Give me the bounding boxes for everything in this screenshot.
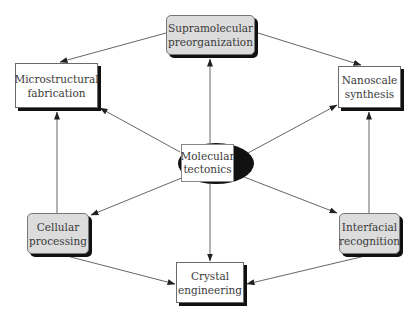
node-label: Interfacial recognition <box>339 220 400 248</box>
node-crystal-engineering: Crystal engineering <box>176 262 244 303</box>
arrow-supramolecular-to-microstructural <box>60 33 166 62</box>
node-interfacial-recognition: Interfacial recognition <box>339 213 400 254</box>
node-label: Supramolecular preorganization <box>168 21 253 49</box>
arrow-center-to-interfacial <box>244 177 337 213</box>
center-label-text: Molecular tectonics <box>181 150 235 176</box>
node-nanoscale-synthesis: Nanoscale synthesis <box>338 66 401 108</box>
node-label: Cellular processing <box>29 220 87 248</box>
arrow-center-to-microstructural <box>100 108 180 152</box>
arrow-interfacial-to-crystal <box>247 256 365 284</box>
concept-diagram: Supramolecular preorganization Microstru… <box>0 0 420 317</box>
arrow-supramolecular-to-nanoscale <box>258 33 361 65</box>
node-label: Microstructural fabrication <box>14 72 98 100</box>
node-microstructural-fabrication: Microstructural fabrication <box>15 63 98 108</box>
node-label: Nanoscale synthesis <box>342 73 398 101</box>
arrow-center-to-nanoscale <box>248 105 337 153</box>
arrow-cellular-to-crystal <box>63 255 175 284</box>
node-supramolecular-preorganization: Supramolecular preorganization <box>166 15 255 55</box>
node-cellular-processing: Cellular processing <box>27 213 89 254</box>
node-label: Crystal engineering <box>178 269 242 297</box>
node-molecular-tectonics: Molecular tectonics <box>181 144 234 182</box>
arrow-center-to-cellular <box>91 177 184 215</box>
